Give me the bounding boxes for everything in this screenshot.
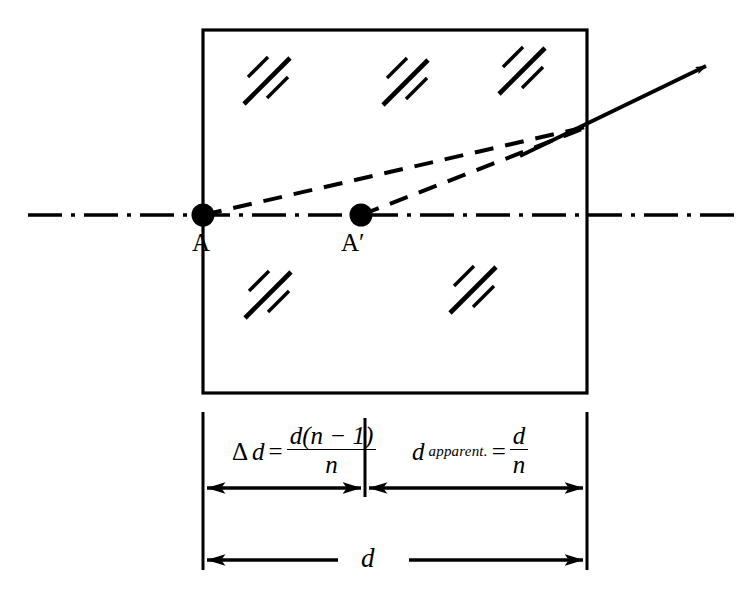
delta-d-denominator: n [287,450,377,477]
delta-d-variable: d [252,439,265,464]
optics-diagram: A A′ Δd = d(n − 1) n dapparent. = d n d [0,0,755,609]
delta-d-numerator: d(n − 1) [287,423,377,450]
dimension-arrows [207,488,583,560]
refracted-ray [520,66,706,156]
d-apparent-denominator: n [510,450,529,477]
hatch-cluster-upper-middle [383,58,428,105]
hatch-cluster-upper-left [244,57,290,104]
hatch-cluster-upper-right [499,47,545,94]
d-apparent-subscript: apparent. [429,444,488,459]
point-label-A: A [192,230,210,255]
d-apparent-numerator: d [510,423,529,450]
d-apparent-fraction: d n [510,423,529,477]
delta-d-equals: = [269,439,283,464]
glass-hatch-marks [244,47,545,318]
point-A-prime-dot [350,204,373,227]
formula-d-apparent: dapparent. = d n [412,424,528,478]
d-apparent-equals: = [492,439,506,464]
dimension-label-total-d: d [361,545,375,572]
formula-delta-d: Δd = d(n − 1) n [232,424,376,478]
hatch-cluster-lower-left [245,271,291,318]
point-label-A-prime: A′ [341,230,365,255]
diagram-canvas [0,0,755,609]
hatch-cluster-lower-right [450,266,496,313]
delta-symbol: Δ [232,439,248,464]
point-A-dot [192,204,215,227]
delta-d-fraction: d(n − 1) n [287,423,377,477]
virtual-rays [203,126,590,215]
d-apparent-variable: d [412,439,425,464]
